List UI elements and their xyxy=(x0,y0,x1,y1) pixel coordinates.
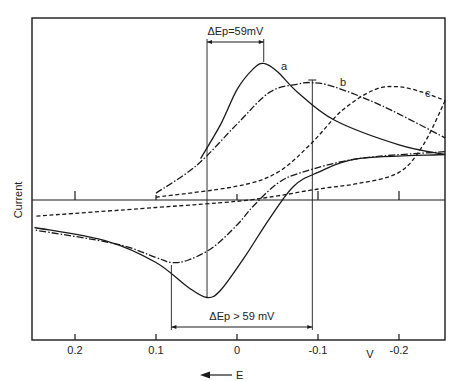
bracket-arrow-icon xyxy=(171,325,176,329)
cyclic-voltammogram-chart: 0.20.10-0.1-0.2 ΔEp=59mVΔEp > 59 mV abc … xyxy=(0,0,460,381)
curve-a-forward xyxy=(201,63,446,158)
zero-line-ticks xyxy=(75,191,399,200)
curve-a-reverse xyxy=(35,155,446,298)
x-tick-label: -0.1 xyxy=(309,344,328,356)
x-tick-label: 0 xyxy=(234,344,240,356)
x-tick-label: 0.1 xyxy=(148,344,163,356)
curve-label-b: b xyxy=(340,76,346,88)
x-unit-label: V xyxy=(366,348,374,360)
curve-label-a: a xyxy=(281,60,288,72)
arrow-head-icon xyxy=(200,372,210,379)
curve-b-forward xyxy=(156,82,445,193)
curves xyxy=(35,63,446,297)
x-axis-label: E xyxy=(236,369,243,381)
x-tick-label: 0.2 xyxy=(67,344,82,356)
x-axis-tick-labels: 0.20.10-0.1-0.2 xyxy=(67,344,408,356)
curve-b-reverse xyxy=(35,152,446,263)
curve-labels: abc xyxy=(281,60,431,99)
curve-c-reverse xyxy=(35,101,446,217)
x-axis-ticks xyxy=(75,334,399,340)
annotation-label: ΔEp > 59 mV xyxy=(209,310,275,322)
direction-arrow: E xyxy=(200,369,243,381)
x-tick-label: -0.2 xyxy=(390,344,409,356)
bracket-arrow-icon xyxy=(259,40,264,44)
bracket-arrow-icon xyxy=(207,40,212,44)
bracket-arrow-icon xyxy=(307,325,312,329)
curve-label-c: c xyxy=(425,87,431,99)
y-axis-label: Current xyxy=(12,182,24,219)
annotations: ΔEp=59mVΔEp > 59 mV xyxy=(171,25,316,330)
plot-frame xyxy=(32,18,445,340)
annotation-label: ΔEp=59mV xyxy=(207,25,264,37)
